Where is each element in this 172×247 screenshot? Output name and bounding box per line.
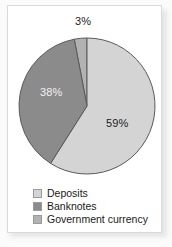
pie-data-label-government-currency: 3%	[75, 16, 91, 27]
legend-label-government-currency: Government currency	[47, 213, 148, 226]
legend-swatch-deposits	[33, 189, 42, 198]
legend-swatch-banknotes	[33, 202, 42, 211]
legend-label-deposits: Deposits	[47, 187, 88, 200]
figure-root: 59% 38% 3% Deposits Banknotes Government…	[0, 0, 172, 247]
legend-item-government-currency[interactable]: Government currency	[33, 213, 161, 226]
pie-chart-card: 59% 38% 3% Deposits Banknotes Government…	[7, 5, 162, 233]
legend-label-banknotes: Banknotes	[47, 200, 97, 213]
legend-item-deposits[interactable]: Deposits	[33, 187, 161, 200]
chart-legend: Deposits Banknotes Government currency	[33, 187, 161, 226]
pie-chart-svg	[8, 6, 163, 186]
pie-plot-area: 59% 38% 3%	[8, 6, 163, 186]
pie-data-label-banknotes: 38%	[40, 87, 62, 98]
pie-data-label-deposits: 59%	[106, 118, 128, 129]
legend-swatch-government-currency	[33, 215, 42, 224]
legend-item-banknotes[interactable]: Banknotes	[33, 200, 161, 213]
pie-slices	[19, 38, 155, 174]
